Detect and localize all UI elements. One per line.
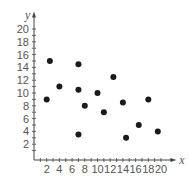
x-tick-label: 8 [82, 163, 88, 175]
x-tick-label: 18 [142, 163, 154, 175]
y-tick-label: 8 [23, 100, 29, 112]
y-tick-label: 2 [23, 138, 29, 150]
data-point [82, 103, 88, 109]
data-point [155, 128, 161, 134]
x-tick-label: 4 [56, 163, 62, 175]
x-tick-label: 20 [155, 163, 167, 175]
x-axis-arrow-icon [170, 158, 176, 162]
x-tick-label: 12 [104, 163, 116, 175]
data-point [44, 96, 50, 102]
y-axis-label: y [24, 8, 31, 22]
y-tick-label: 18 [17, 36, 29, 48]
data-point [101, 109, 107, 115]
data-point [145, 96, 151, 102]
y-tick-label: 16 [17, 49, 29, 61]
x-tick-label: 6 [69, 163, 75, 175]
tick-labels: 24681012141618202468101214161820xy [17, 8, 186, 175]
axes [32, 12, 176, 162]
x-tick-label: 16 [129, 163, 141, 175]
y-tick-label: 6 [23, 113, 29, 125]
data-point [120, 100, 126, 106]
x-axis-label: x [178, 153, 185, 167]
y-tick-label: 4 [23, 125, 29, 137]
data-points [44, 58, 161, 141]
y-tick-label: 12 [17, 74, 29, 86]
y-tick-label: 10 [17, 87, 29, 99]
data-point [136, 122, 142, 128]
x-tick-label: 2 [44, 163, 50, 175]
data-point [56, 84, 62, 90]
x-tick-label: 14 [117, 163, 129, 175]
data-point [75, 61, 81, 67]
scatter-chart: 24681012141618202468101214161820xy [0, 0, 189, 184]
data-point [110, 74, 116, 80]
y-tick-label: 20 [17, 23, 29, 35]
y-axis-arrow-icon [32, 12, 36, 18]
data-point [47, 58, 53, 64]
y-tick-label: 14 [17, 61, 29, 73]
data-point [95, 90, 101, 96]
data-point [75, 132, 81, 138]
data-point [75, 87, 81, 93]
x-tick-label: 10 [91, 163, 103, 175]
data-point [123, 135, 129, 141]
